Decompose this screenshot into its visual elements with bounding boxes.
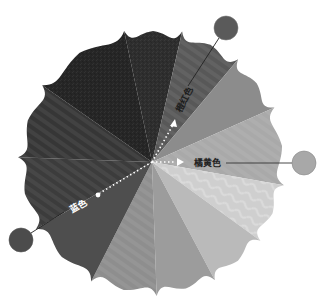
orange-yellow-label: 橘黄色 [193, 157, 221, 168]
orange-yellow-swatch [292, 151, 316, 175]
blue-swatch [9, 228, 33, 252]
color-wheel-diagram: 橙红色 橘黄色 蓝色 [0, 0, 324, 303]
blue-pointer-dot [96, 193, 101, 198]
orange-red-swatch [214, 16, 238, 40]
color-wheel: 橙红色 橘黄色 蓝色 [0, 0, 324, 303]
